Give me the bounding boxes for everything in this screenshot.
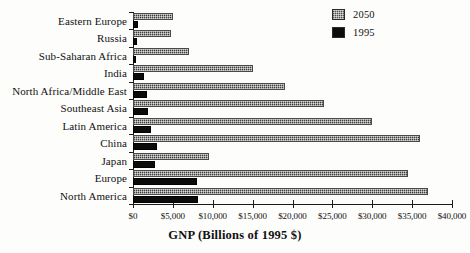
chart-row: Japan [133,153,452,170]
y-axis-tick [129,12,134,13]
chart-row: China [133,135,452,152]
category-label: North Africa/Middle East [12,86,127,97]
bar-1995 [133,143,157,150]
bar-2050 [133,83,285,90]
gnp-bar-chart: 2050 1995 $0$5,000$10,000$15,000$20,000$… [0,0,470,253]
category-label: Eastern Europe [58,16,127,27]
x-axis-tick-label: $35,000 [398,211,427,221]
bar-1995 [133,91,147,98]
bar-1995 [133,56,136,63]
category-label: Southeast Asia [61,103,127,114]
x-axis-tick-label: $20,000 [278,211,307,221]
chart-row: India [133,65,452,82]
bar-2050 [133,100,324,107]
category-label: North America [60,191,127,202]
bar-2050 [133,188,428,195]
category-label: Europe [95,173,127,184]
category-label: Russia [97,33,127,44]
bar-1995 [133,178,197,185]
bar-2050 [133,30,171,37]
plot-area: $0$5,000$10,000$15,000$20,000$25,000$30,… [133,12,452,204]
bar-1995 [133,21,138,28]
bar-1995 [133,108,148,115]
x-axis-tick-label: $25,000 [318,211,347,221]
y-axis-tick [129,99,134,100]
chart-row: Southeast Asia [133,100,452,117]
bar-1995 [133,73,144,80]
y-axis-tick [129,117,134,118]
category-label: China [100,138,127,149]
chart-row: Europe [133,170,452,187]
x-axis-tick [452,200,453,208]
bar-1995 [133,126,151,133]
chart-row: Russia [133,30,452,47]
x-axis-tick-label: $5,000 [161,211,185,221]
category-label: Latin America [62,121,127,132]
bar-2050 [133,65,253,72]
bar-2050 [133,153,209,160]
category-label: India [104,68,127,79]
x-axis-tick-label: $30,000 [358,211,387,221]
chart-row: Sub-Saharan Africa [133,48,452,65]
y-axis-tick [129,204,134,205]
y-axis-tick [129,29,134,30]
chart-row: North Africa/Middle East [133,83,452,100]
y-axis-tick [129,82,134,83]
x-axis-title: GNP (Billions of 1995 $) [0,228,470,243]
x-axis-tick-label: $10,000 [198,211,227,221]
x-axis-tick-label: $40,000 [438,211,467,221]
bar-2050 [133,135,420,142]
bar-2050 [133,118,372,125]
category-label: Sub-Saharan Africa [39,51,127,62]
bar-2050 [133,48,189,55]
bar-2050 [133,170,408,177]
bar-1995 [133,161,155,168]
y-axis-tick [129,169,134,170]
y-axis-tick [129,134,134,135]
bar-1995 [133,38,137,45]
chart-row: Eastern Europe [133,13,452,30]
y-axis-tick [129,187,134,188]
bar-1995 [133,196,198,203]
x-axis-tick-label: $0 [129,211,138,221]
category-label: Japan [101,156,127,167]
chart-row: North America [133,188,452,205]
chart-row: Latin America [133,118,452,135]
bar-2050 [133,13,173,20]
y-axis-tick [129,64,134,65]
y-axis-tick [129,47,134,48]
y-axis-tick [129,152,134,153]
x-axis-tick-label: $15,000 [238,211,267,221]
